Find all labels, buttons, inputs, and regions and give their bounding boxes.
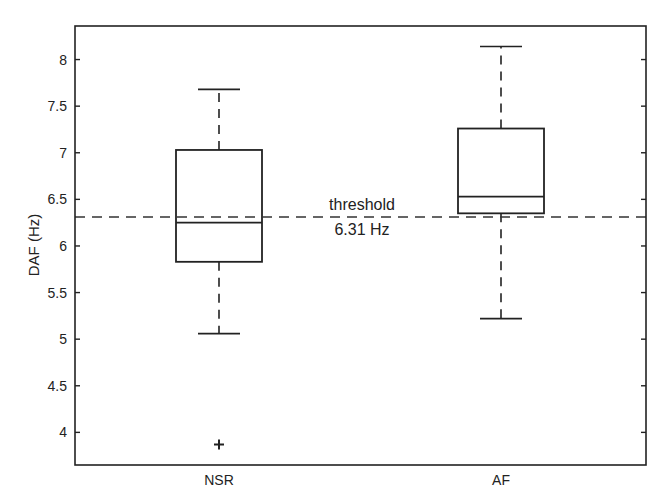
y-axis-label: DAF (Hz) (25, 214, 42, 277)
y-tick-label: 7.5 (48, 98, 68, 114)
threshold-value-label: 6.31 Hz (334, 221, 389, 238)
threshold-label: threshold (329, 196, 395, 213)
y-tick-label: 6.5 (48, 191, 68, 207)
boxplot-chart: 44.555.566.577.58 DAF (Hz) threshold 6.3… (0, 0, 659, 503)
y-tick-label: 7 (59, 145, 67, 161)
iqr-box (176, 150, 262, 262)
y-tick-label: 4 (59, 424, 67, 440)
y-tick-label: 4.5 (48, 378, 68, 394)
x-category-label: AF (492, 472, 510, 488)
y-tick-label: 8 (59, 52, 67, 68)
y-tick-label: 5.5 (48, 285, 68, 301)
x-category-label: NSR (204, 472, 234, 488)
y-tick-label: 6 (59, 238, 67, 254)
iqr-box (458, 129, 544, 214)
y-tick-label: 5 (59, 331, 67, 347)
chart-background (0, 0, 659, 503)
